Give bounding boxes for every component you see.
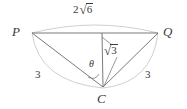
vertex-label-c: C [97, 92, 106, 105]
arc-pq [32, 25, 158, 33]
label-segment-pc: 3 [35, 69, 41, 80]
vertex-label-p: P [12, 25, 20, 38]
label-segment-pq: 2√6 [73, 3, 93, 16]
geometry-figure: 2√6 P Q √3 θ 3 3 C [0, 0, 187, 109]
figure-canvas [0, 0, 187, 109]
label-segment-height: √3 [104, 44, 118, 57]
segment-midpoint-to-c [102, 33, 103, 87]
leader-line-sqrt3-bottom [104, 57, 117, 86]
angle-arc-theta [88, 74, 99, 78]
angle-label-theta: θ [89, 59, 94, 69]
coefficient-2: 2 [73, 3, 79, 15]
radicand-3: 3 [110, 44, 118, 56]
radical-6: √6 [80, 3, 94, 16]
radical-3: √3 [104, 44, 118, 57]
label-segment-qc: 3 [145, 69, 151, 80]
radicand-6: 6 [86, 3, 94, 15]
vertex-label-q: Q [163, 25, 172, 38]
